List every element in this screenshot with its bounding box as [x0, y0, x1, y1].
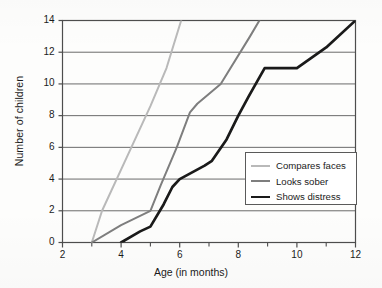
x-tick-label-8: 8 [228, 249, 248, 260]
y-tick-label-14: 14 [35, 14, 55, 25]
y-tick-label-2: 2 [35, 204, 55, 215]
y-tick-label-10: 10 [35, 77, 55, 88]
x-tick-label-2: 2 [53, 249, 73, 260]
y-axis-title: Number of children [6, 0, 32, 242]
y-tick-label-0: 0 [35, 236, 55, 247]
x-tick-label-4: 4 [111, 249, 131, 260]
chart-legend: Compares facesLooks soberShows distress [245, 152, 357, 205]
chart-figure: 02468101214 24681012 Number of children … [0, 0, 382, 288]
series-line-1 [92, 21, 260, 243]
y-axis-title-text: Number of children [13, 76, 25, 167]
y-tick-label-12: 12 [35, 46, 55, 57]
legend-label-1: Looks sober [276, 176, 328, 187]
legend-item-1: Looks sober [251, 173, 328, 190]
plot-border [63, 21, 356, 243]
plot-frame [63, 21, 356, 243]
x-tick-label-6: 6 [170, 249, 190, 260]
legend-swatch-1 [251, 180, 270, 182]
legend-swatch-2 [251, 196, 270, 198]
legend-label-2: Shows distress [276, 191, 341, 202]
y-tick-label-4: 4 [35, 173, 55, 184]
data-series-group [92, 21, 356, 243]
series-line-0 [92, 21, 181, 243]
x-axis-title-text: Age (in months) [0, 266, 382, 278]
x-tick-label-10: 10 [287, 249, 307, 260]
y-tick-label-6: 6 [35, 141, 55, 152]
legend-label-0: Compares faces [276, 160, 346, 171]
x-tick-label-12: 12 [346, 249, 366, 260]
legend-item-0: Compares faces [251, 157, 346, 174]
legend-item-2: Shows distress [251, 188, 341, 205]
line-chart-plot [0, 0, 382, 288]
tick-mark-group [59, 21, 356, 248]
legend-swatch-0 [251, 165, 270, 167]
y-tick-label-8: 8 [35, 109, 55, 120]
